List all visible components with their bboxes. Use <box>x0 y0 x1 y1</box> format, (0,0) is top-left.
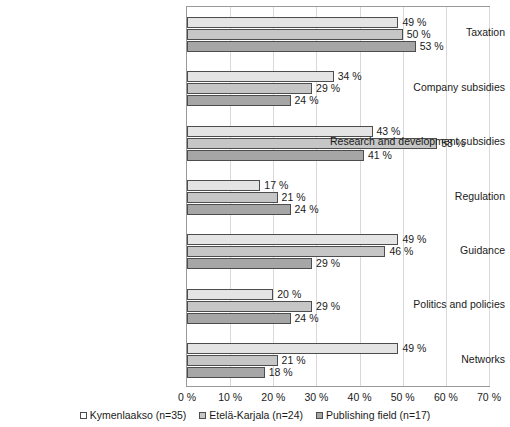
bar[interactable] <box>187 289 273 300</box>
bar-value-label: 20 % <box>277 287 301 301</box>
x-axis-tick-label: 50 % <box>391 390 415 404</box>
category-label: Regulation <box>330 190 510 203</box>
bar-value-label: 29 % <box>316 256 340 270</box>
bar[interactable] <box>187 71 334 82</box>
legend-swatch-icon <box>199 412 206 419</box>
legend-label: Etelä-Karjala (n=24) <box>209 409 303 421</box>
bar-value-label: 53 % <box>420 39 444 53</box>
bar-value-label: 24 % <box>295 93 319 107</box>
bar[interactable] <box>187 150 364 161</box>
bar-value-label: 18 % <box>269 365 293 379</box>
x-axis-tick-label: 70 % <box>477 390 501 404</box>
category-label: Politics and policies <box>330 298 510 311</box>
legend-item[interactable]: Etelä-Karjala (n=24) <box>199 409 303 421</box>
chart-legend: Kymenlaakso (n=35)Etelä-Karjala (n=24)Pu… <box>0 409 510 421</box>
x-axis-tick-label: 0 % <box>178 390 196 404</box>
legend-label: Kymenlaakso (n=35) <box>90 409 187 421</box>
bar[interactable] <box>187 313 291 324</box>
x-axis-tick-label: 30 % <box>304 390 328 404</box>
bar[interactable] <box>187 258 312 269</box>
bar[interactable] <box>187 83 312 94</box>
bar[interactable] <box>187 41 416 52</box>
bar[interactable] <box>187 367 265 378</box>
x-axis-tick-label: 40 % <box>348 390 372 404</box>
legend-item[interactable]: Kymenlaakso (n=35) <box>80 409 187 421</box>
bar[interactable] <box>187 192 278 203</box>
bar-value-label: 24 % <box>295 311 319 325</box>
category-label: Networks <box>330 353 510 366</box>
bar-value-label: 24 % <box>295 202 319 216</box>
category-label: Research and development subsidies <box>330 135 510 148</box>
bar[interactable] <box>187 204 291 215</box>
x-axis-tick-label: 20 % <box>261 390 285 404</box>
legend-swatch-icon <box>80 412 87 419</box>
bar[interactable] <box>187 301 312 312</box>
x-axis-tick-label: 60 % <box>434 390 458 404</box>
category-label: Company subsidies <box>330 81 510 94</box>
x-axis-tick-label: 10 % <box>218 390 242 404</box>
bar[interactable] <box>187 95 291 106</box>
bar-chart: 49 %50 %53 %34 %29 %24 %43 %58 %41 %17 %… <box>0 0 510 427</box>
legend-item[interactable]: Publishing field (n=17) <box>316 409 430 421</box>
legend-label: Publishing field (n=17) <box>326 409 430 421</box>
category-label: Guidance <box>330 244 510 257</box>
bar[interactable] <box>187 355 278 366</box>
bar-value-label: 41 % <box>368 148 392 162</box>
bar[interactable] <box>187 180 260 191</box>
legend-swatch-icon <box>316 412 323 419</box>
category-label: Taxation <box>330 26 510 39</box>
